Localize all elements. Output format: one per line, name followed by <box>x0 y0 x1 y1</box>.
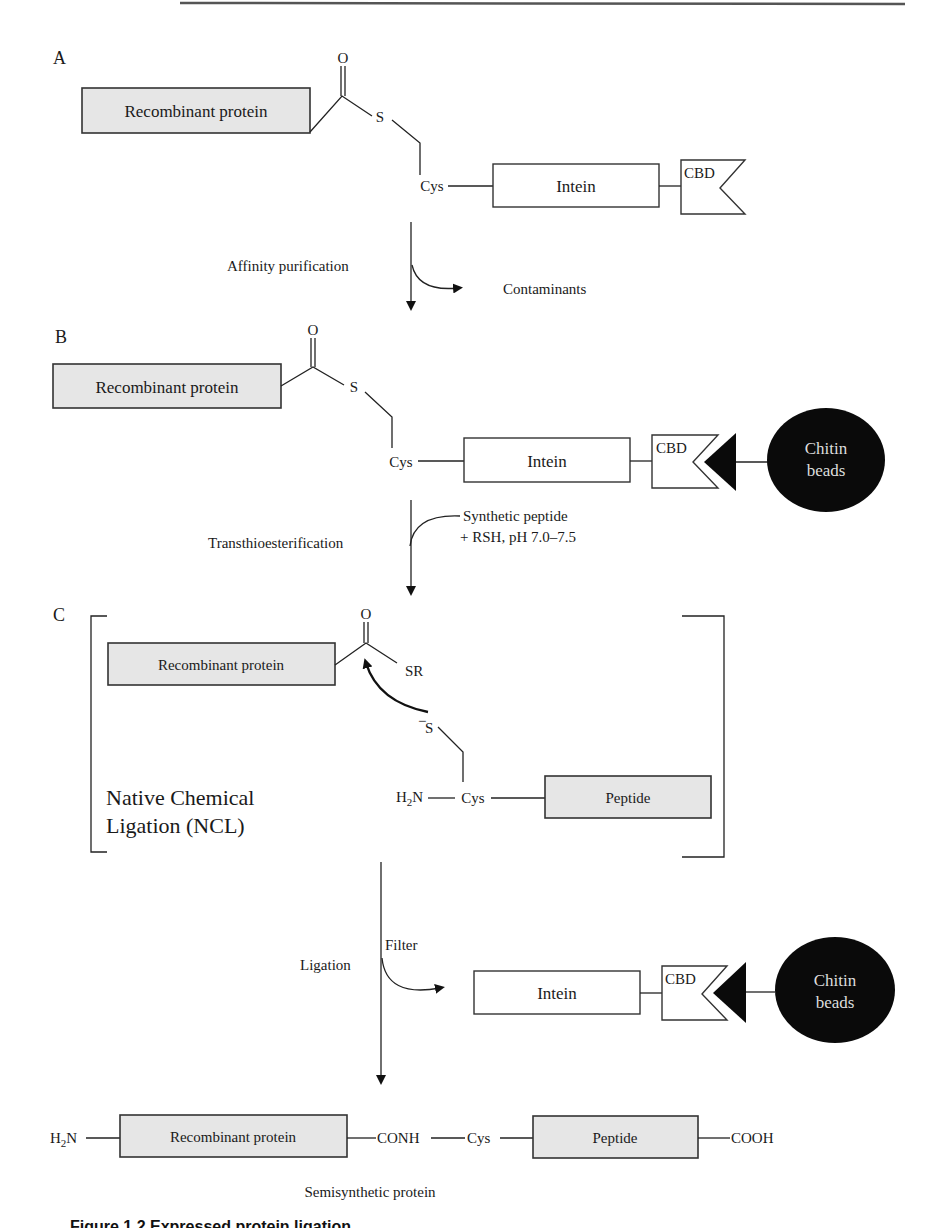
intein-label: Intein <box>527 452 567 471</box>
carbonyl-oxygen: O <box>308 322 319 338</box>
carbonyl-oxygen: O <box>361 606 372 622</box>
expressed-protein-ligation-diagram: A Recombinant protein O S Cys Intein CBD… <box>0 0 940 1228</box>
panel-a: A Recombinant protein O S Cys Intein CBD <box>53 48 745 214</box>
recombinant-protein-label: Recombinant protein <box>158 657 285 673</box>
recombinant-protein-label: Recombinant protein <box>124 102 268 121</box>
step-transthioesterification: Transthioesterification Synthetic peptid… <box>208 500 576 591</box>
chitin-beads-label-line2: beads <box>816 993 855 1012</box>
panel-c: C Recombinant protein O SR − S H2N Cys P… <box>53 605 724 857</box>
step-affinity-purification: Affinity purification Contaminants <box>227 222 586 306</box>
ligation-label: Ligation <box>300 957 351 973</box>
chitin-bead <box>767 408 885 512</box>
chitin-bead <box>775 937 895 1043</box>
filter-label: Filter <box>385 937 418 953</box>
panel-letter-a: A <box>53 48 66 68</box>
peptide-label: Peptide <box>606 790 651 806</box>
contaminants-label: Contaminants <box>503 281 586 297</box>
cys-label: Cys <box>467 1130 491 1146</box>
reagent-arrow <box>410 516 460 546</box>
step-ligation: Ligation Filter Intein CBD Chitin beads <box>300 862 895 1080</box>
ncl-label-line1: Native Chemical <box>106 785 254 810</box>
intein-label: Intein <box>537 984 577 1003</box>
semisynthetic-protein-label: Semisynthetic protein <box>304 1184 436 1200</box>
chitin-beads-label-line1: Chitin <box>805 439 848 458</box>
cbd-label: CBD <box>665 971 696 987</box>
semisynthetic-protein-product: H2N Recombinant protein CONH Cys Peptide… <box>50 1115 774 1200</box>
left-bracket <box>91 616 107 852</box>
recombinant-protein-label: Recombinant protein <box>170 1129 297 1145</box>
carbonyl-oxygen: O <box>338 50 349 66</box>
thioester-bond <box>310 96 372 132</box>
filter-arrow <box>382 958 440 990</box>
right-bracket <box>682 616 724 857</box>
intein-label: Intein <box>556 177 596 196</box>
side-arrow <box>412 265 458 289</box>
carboxyl-label: COOH <box>731 1130 774 1146</box>
figure-caption: Figure 1.2 Expressed protein ligation... <box>70 1212 364 1228</box>
cys-label: Cys <box>461 790 485 806</box>
cys-label: Cys <box>420 178 444 194</box>
reagent-line2: + RSH, pH 7.0–7.5 <box>460 529 576 545</box>
amide-label: CONH <box>377 1130 420 1146</box>
thiolate-sulfur: S <box>425 720 433 736</box>
thioester-bond <box>281 367 344 386</box>
cbd-label: CBD <box>656 440 687 456</box>
chitin-beads-label-line2: beads <box>807 461 846 480</box>
ncl-label-line2: Ligation (NCL) <box>106 813 245 838</box>
sr-label: SR <box>405 663 423 679</box>
sulfur-label: S <box>350 379 358 395</box>
chitin-beads-label-line1: Chitin <box>814 971 857 990</box>
amine-label: H2N <box>50 1130 77 1149</box>
sulfur-label: S <box>376 109 384 125</box>
step-label: Affinity purification <box>227 258 349 274</box>
panel-letter-b: B <box>55 327 67 347</box>
cbd-label: CBD <box>684 165 715 181</box>
panel-letter-c: C <box>53 605 65 625</box>
reagent-line1: Synthetic peptide <box>463 508 568 524</box>
thioester-bond <box>335 643 397 665</box>
header-rule <box>180 3 905 4</box>
peptide-label: Peptide <box>593 1130 638 1146</box>
amine-label: H2N <box>396 789 423 808</box>
step-label: Transthioesterification <box>208 535 344 551</box>
panel-b: B Recombinant protein O S Cys Intein CBD… <box>53 322 885 512</box>
recombinant-protein-label: Recombinant protein <box>95 378 239 397</box>
cys-label: Cys <box>389 454 413 470</box>
